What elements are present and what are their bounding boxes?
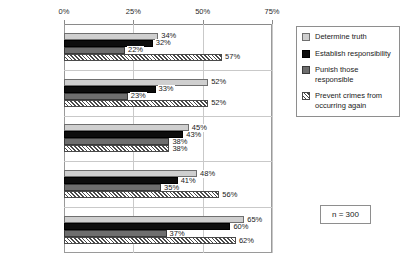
- chart-container: 0%25%50%75% 1st Quintile34%32%22%57%2nd …: [0, 0, 406, 261]
- legend-item-determine-truth: Determine truth: [302, 32, 394, 42]
- bar-row: 62%: [64, 237, 272, 244]
- bar[interactable]: [64, 237, 236, 244]
- x-tick-label: 50%: [195, 7, 210, 16]
- bar-value-label: 57%: [224, 53, 241, 61]
- x-tick-label: 75%: [264, 7, 279, 16]
- bar[interactable]: [64, 230, 167, 237]
- sample-size-note: n = 300: [320, 205, 371, 224]
- legend-label-punish-those-responsible: Punish those responsible: [315, 65, 394, 84]
- legend-label-prevent-crimes: Prevent crimes from occurring again: [315, 91, 394, 110]
- bar-group: 5th Quintile65%60%37%62%: [64, 207, 272, 253]
- bar[interactable]: [64, 216, 244, 223]
- group-separator: [64, 207, 272, 208]
- legend-swatch-icon-prevent-crimes: [302, 92, 310, 100]
- bar[interactable]: [64, 124, 189, 131]
- bar[interactable]: [64, 131, 183, 138]
- bar-row: 45%: [64, 124, 272, 131]
- bar-row: 38%: [64, 145, 272, 152]
- legend-item-establish-responsibility: Establish responsibility: [302, 49, 394, 59]
- x-tick-label: 25%: [126, 7, 141, 16]
- legend-label-determine-truth: Determine truth: [315, 32, 367, 42]
- bar-row: 43%: [64, 131, 272, 138]
- bar[interactable]: [64, 177, 178, 184]
- bar[interactable]: [64, 191, 219, 198]
- group-separator: [64, 161, 272, 162]
- bar-row: 35%: [64, 184, 272, 191]
- bar-value-label: 52%: [210, 99, 227, 107]
- bar-row: 38%: [64, 138, 272, 145]
- bar[interactable]: [64, 93, 128, 100]
- bar[interactable]: [64, 33, 158, 40]
- bar-group: 2nd Quintile52%33%23%52%: [64, 70, 272, 116]
- bar-row: 32%: [64, 40, 272, 47]
- bar-row: 52%: [64, 100, 272, 107]
- bar-value-label: 38%: [171, 145, 188, 153]
- group-separator: [64, 70, 272, 71]
- x-tick: [272, 20, 273, 24]
- legend-swatch-icon-punish-those-responsible: [302, 66, 310, 74]
- bar[interactable]: [64, 138, 169, 145]
- bar-group: 4th Quintile48%41%35%56%: [64, 161, 272, 207]
- legend-item-prevent-crimes: Prevent crimes from occurring again: [302, 91, 394, 110]
- bar-value-label: 56%: [221, 191, 238, 199]
- bar[interactable]: [64, 100, 208, 107]
- bar[interactable]: [64, 223, 230, 230]
- bar-row: 33%: [64, 86, 272, 93]
- plot-area: 0%25%50%75% 1st Quintile34%32%22%57%2nd …: [64, 24, 272, 253]
- legend-swatch-icon-determine-truth: [302, 33, 310, 41]
- legend-swatch-icon-establish-responsibility: [302, 50, 310, 58]
- bar-row: 23%: [64, 93, 272, 100]
- gridline: [272, 24, 273, 253]
- bar-row: 56%: [64, 191, 272, 198]
- bar-row: 48%: [64, 170, 272, 177]
- bar[interactable]: [64, 145, 169, 152]
- bar[interactable]: [64, 79, 208, 86]
- bar-row: 57%: [64, 54, 272, 61]
- x-tick-label: 0%: [59, 7, 70, 16]
- legend-label-establish-responsibility: Establish responsibility: [315, 49, 391, 59]
- legend: Determine truth Establish responsibility…: [296, 26, 400, 117]
- bar[interactable]: [64, 170, 197, 177]
- bar[interactable]: [64, 184, 161, 191]
- bar-group: 3rd Quintile45%43%38%38%: [64, 116, 272, 162]
- bar[interactable]: [64, 47, 125, 54]
- legend-item-punish-those-responsible: Punish those responsible: [302, 65, 394, 84]
- bar[interactable]: [64, 54, 222, 61]
- group-separator: [64, 116, 272, 117]
- bar-value-label: 62%: [238, 237, 255, 245]
- bar-group: 1st Quintile34%32%22%57%: [64, 24, 272, 70]
